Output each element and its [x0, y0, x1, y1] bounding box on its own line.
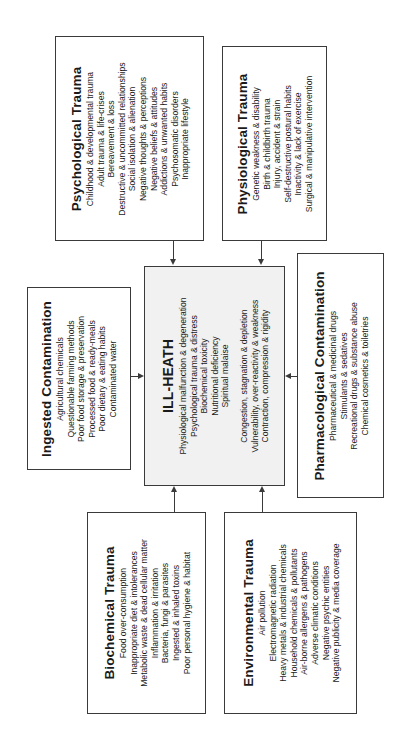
list-item: Genetic weakness & disability: [251, 73, 262, 214]
list-item: Air pollution: [256, 539, 267, 687]
pharmacological-contamination-box: Pharmacological Contamination Pharmaceut…: [297, 253, 384, 498]
connector-environmental: [262, 492, 263, 512]
psychological-trauma-title: Psychological Trauma: [69, 62, 85, 215]
environmental-trauma-box: Environmental Trauma Air pollution Elect…: [224, 512, 357, 714]
arrow-left-icon: [285, 373, 291, 379]
list-item: Spiritual malaise: [220, 297, 231, 454]
environmental-trauma-content: Environmental Trauma Air pollution Elect…: [240, 539, 341, 687]
arrow-up-icon: [171, 486, 177, 492]
list-item: Psychosomatic disorders: [169, 62, 180, 215]
list-item: Physiological malfunction & degeneration: [177, 297, 188, 454]
ingested-contamination-box: Ingested Contamination Agricultural chem…: [27, 287, 131, 470]
physiological-trauma-box: Physiological Trauma Genetic weakness & …: [222, 46, 327, 241]
list-item: Poor dietary & eating habits: [98, 301, 109, 457]
arrow-up-icon: [259, 486, 265, 492]
list-item: Surgical & manipulative intervention: [304, 73, 315, 214]
list-item: Poor personal hygiene & habitat: [181, 539, 192, 687]
list-item: Pharmaceutical & medicinal drugs: [327, 271, 338, 480]
group-spacer: [230, 297, 238, 454]
list-item: Negative publicity & media coverage: [330, 539, 341, 687]
list-item: Bereavement & loss: [106, 62, 117, 215]
list-item: Chemical cosmetics & toiletries: [359, 271, 370, 480]
list-item: Air-borne allergens & pathogens: [299, 539, 310, 687]
ill-health-center-box: ILL-HEATH Physiological malfunction & de…: [144, 266, 285, 486]
list-item: Metabolic waste & dead cellular matter: [139, 539, 150, 687]
biochemical-trauma-box: Biochemical Trauma Food over-consumption…: [87, 512, 206, 714]
biochemical-trauma-title: Biochemical Trauma: [101, 539, 117, 687]
list-item: Heavy metals & industrial chemicals: [277, 539, 288, 687]
list-item: Negative thoughts & perceptions: [138, 62, 149, 215]
list-item: Birth & childbirth trauma: [261, 73, 272, 214]
biochemical-trauma-content: Biochemical Trauma Food over-consumption…: [101, 539, 191, 687]
list-item: Adult trauma & life-crises: [95, 62, 106, 215]
pharmacological-contamination-content: Pharmacological Contamination Pharmaceut…: [311, 271, 369, 480]
list-item: Inflammation & irritation: [149, 539, 160, 687]
list-item: Psychological trauma & distress: [188, 297, 199, 454]
list-item: Negative beliefs & attitudes: [148, 62, 159, 215]
list-item: Biochemical toxicity: [198, 297, 209, 454]
list-item: Electromagnetic radiation: [267, 539, 278, 687]
list-item: Contaminated water: [108, 301, 119, 457]
list-item: Bacteria, fungi & parasites: [160, 539, 171, 687]
connector-pharmacological: [290, 376, 297, 377]
list-item: Stimulants & sedatives: [338, 271, 349, 480]
list-item: Adverse climatic conditions: [309, 539, 320, 687]
list-item: Inactivity & lack of exercise: [293, 73, 304, 214]
list-item: Negative psychic entities: [320, 539, 331, 687]
connector-biochemical: [174, 492, 175, 512]
list-item: Recreational drugs & substance abuse: [349, 271, 360, 480]
list-item: Ingested & inhaled toxins: [170, 539, 181, 687]
list-item: Childhood & developmental trauma: [85, 62, 96, 215]
arrow-down-icon: [258, 259, 264, 265]
arrow-right-icon: [138, 373, 144, 379]
psychological-trauma-box: Psychological Trauma Childhood & develop…: [55, 36, 204, 241]
list-item: Inappropriate diet & intolerances: [128, 539, 139, 687]
list-item: Social isolation & alienation: [127, 62, 138, 215]
list-item: Vulnerability, over-reactivity & weaknes…: [249, 297, 260, 454]
list-item: Nutritional deficiency: [209, 297, 220, 454]
connector-psychological: [173, 241, 174, 260]
list-item: Destructive & uncommitted relationships: [116, 62, 127, 215]
list-item: Self-destructive postural habits: [283, 73, 294, 214]
list-item: Contraction, compression & rigidity: [259, 297, 270, 454]
physiological-trauma-content: Physiological Trauma Genetic weakness & …: [235, 73, 315, 214]
pharmacological-contamination-title: Pharmacological Contamination: [311, 271, 327, 480]
ingested-contamination-content: Ingested Contamination Agricultural chem…: [39, 301, 119, 457]
list-item: Addictions & unwanted habits: [159, 62, 170, 215]
list-item: Food over-consumption: [117, 539, 128, 687]
ill-health-title: ILL-HEATH: [159, 297, 176, 454]
list-item: Agricultural chemicals: [55, 301, 66, 457]
connector-physiological: [261, 241, 262, 260]
psychological-trauma-content: Psychological Trauma Childhood & develop…: [69, 62, 191, 215]
environmental-trauma-title: Environmental Trauma: [240, 539, 256, 687]
physiological-trauma-title: Physiological Trauma: [235, 73, 251, 214]
list-item: Household chemicals & pollutants: [288, 539, 299, 687]
ingested-contamination-title: Ingested Contamination: [39, 301, 55, 457]
list-item: Processed food & ready-meals: [87, 301, 98, 457]
list-item: Poor food storage & preservation: [76, 301, 87, 457]
arrow-down-icon: [170, 259, 176, 265]
list-item: Inappropriate lifestyle: [180, 62, 191, 215]
list-item: Questionable farming methods: [66, 301, 77, 457]
list-item: Injury, accident & strain: [272, 73, 283, 214]
ill-health-content: ILL-HEATH Physiological malfunction & de…: [159, 297, 270, 454]
list-item: Congestion, stagnation & depletion: [238, 297, 249, 454]
